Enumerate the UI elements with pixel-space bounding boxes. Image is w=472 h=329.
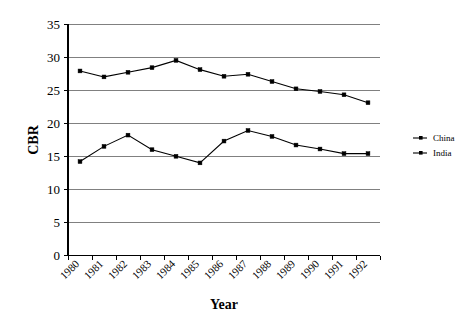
x-axis-ticks	[68, 256, 380, 260]
x-tick-label: 1984	[153, 257, 177, 281]
data-point-marker	[102, 144, 106, 148]
x-tick-label: 1991	[321, 257, 345, 281]
data-point-marker	[342, 152, 346, 156]
legend-label-china: China	[433, 133, 455, 143]
data-point-marker	[150, 66, 154, 70]
legend-marker	[419, 151, 423, 155]
data-point-marker	[318, 147, 322, 151]
y-axis-ticks: 05101520253035	[47, 17, 68, 264]
line-chart: 05101520253035 1980198119821983198419851…	[0, 0, 472, 329]
y-tick-label: 20	[47, 116, 60, 131]
y-tick-label: 5	[54, 215, 61, 230]
legend-label-india: India	[433, 148, 452, 158]
data-point-marker	[126, 133, 130, 137]
data-point-marker	[102, 75, 106, 79]
data-point-marker	[150, 148, 154, 152]
data-point-marker	[198, 68, 202, 72]
x-tick-label: 1980	[57, 257, 81, 281]
data-point-marker	[318, 90, 322, 94]
y-tick-label: 25	[47, 83, 60, 98]
data-point-marker	[294, 87, 298, 91]
data-point-marker	[366, 101, 370, 105]
data-point-marker	[174, 58, 178, 62]
data-point-marker	[246, 72, 250, 76]
legend-marker	[419, 136, 423, 140]
data-point-marker	[246, 129, 250, 133]
data-point-marker	[294, 143, 298, 147]
x-tick-label: 1988	[249, 257, 273, 281]
y-tick-label: 0	[54, 248, 61, 263]
data-point-marker	[78, 69, 82, 73]
chart-container: 05101520253035 1980198119821983198419851…	[0, 0, 472, 329]
x-tick-label: 1987	[225, 257, 249, 281]
data-point-marker	[126, 70, 130, 74]
data-point-marker	[78, 160, 82, 164]
x-tick-label: 1990	[297, 257, 321, 281]
data-point-marker	[270, 135, 274, 139]
x-tick-label: 1983	[129, 257, 153, 281]
x-axis-labels: 1980198119821983198419851986198719881989…	[57, 257, 369, 281]
y-tick-label: 15	[47, 149, 60, 164]
x-tick-label: 1982	[105, 257, 129, 281]
data-point-marker	[270, 80, 274, 84]
data-point-marker	[222, 74, 226, 78]
y-axis-title: CBR	[26, 124, 41, 154]
data-point-marker	[222, 139, 226, 143]
x-tick-label: 1992	[345, 257, 369, 281]
y-tick-label: 30	[47, 50, 60, 65]
x-tick-label: 1986	[201, 257, 225, 281]
x-tick-label: 1985	[177, 257, 201, 281]
data-point-marker	[366, 152, 370, 156]
y-tick-label: 10	[47, 182, 60, 197]
x-tick-label: 1981	[81, 257, 105, 281]
chart-legend: ChinaIndia	[413, 133, 455, 158]
x-tick-label: 1989	[273, 257, 297, 281]
data-point-marker	[174, 154, 178, 158]
data-point-marker	[198, 161, 202, 165]
y-tick-label: 35	[47, 17, 60, 32]
x-axis-title: Year	[210, 297, 238, 312]
data-point-marker	[342, 93, 346, 97]
